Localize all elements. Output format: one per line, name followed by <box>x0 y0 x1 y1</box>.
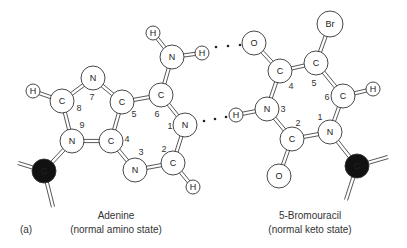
atom-n-na: N <box>160 45 184 69</box>
svg-text:C: C <box>119 97 126 107</box>
hydrogen-bond-dot <box>227 45 230 48</box>
svg-text:C: C <box>59 96 66 106</box>
adenine-state: (normal amino state) <box>56 223 176 236</box>
svg-text:C: C <box>340 91 347 101</box>
atom-c-c2: C <box>161 151 185 175</box>
svg-text:H: H <box>370 84 377 94</box>
atom-c-c5: C <box>110 90 134 114</box>
atom-h-ha1: H <box>146 26 160 40</box>
svg-text:N: N <box>182 120 189 130</box>
panel-label: (a) <box>16 223 36 236</box>
svg-text:N: N <box>69 136 76 146</box>
ring-position-number: 6 <box>324 92 329 102</box>
svg-text:C: C <box>170 158 177 168</box>
hydrogen-bond-dot <box>215 46 218 49</box>
atom-h-ha2: H <box>195 46 209 60</box>
svg-text:N: N <box>327 127 334 137</box>
svg-text:N: N <box>90 73 97 83</box>
svg-text:C: C <box>313 58 320 68</box>
svg-text:H: H <box>233 110 240 120</box>
svg-text:H: H <box>30 86 37 96</box>
svg-text:O: O <box>275 171 282 181</box>
ring-position-number: 6 <box>154 109 159 119</box>
svg-text:C: C <box>277 66 284 76</box>
svg-text:O: O <box>250 38 257 48</box>
atom-n-n7: N <box>81 66 105 90</box>
atom-c-c2: C <box>280 127 304 151</box>
bromouracil-title: 5-Bromouracil <box>250 209 370 222</box>
atom-c-c4: C <box>268 59 292 83</box>
atom-n-n1: N <box>318 120 342 144</box>
atom-h-h2: H <box>186 180 200 194</box>
ring-position-number: 1 <box>167 121 172 131</box>
svg-text:N: N <box>132 165 139 175</box>
svg-text:C: C <box>158 90 165 100</box>
atom-c-c6: C <box>331 84 355 108</box>
svg-text:N: N <box>264 104 271 114</box>
ring-position-number: 7 <box>89 92 94 102</box>
adenine-title: Adenine <box>56 209 176 222</box>
svg-text:Br: Br <box>326 19 335 29</box>
atom-h-h8: H <box>26 84 40 98</box>
atom-n-n1: N <box>173 113 197 137</box>
ring-position-number: 4 <box>288 81 293 91</box>
svg-text:C: C <box>108 136 115 146</box>
svg-text:C: C <box>289 134 296 144</box>
ring-position-number: 3 <box>138 147 143 157</box>
svg-text:C: C <box>41 166 48 176</box>
atom-c-c6: C <box>149 83 173 107</box>
svg-text:C: C <box>354 161 361 171</box>
atom-c-c8: C <box>50 89 74 113</box>
atom-n-n3: N <box>255 97 279 121</box>
atom-h-h3: H <box>229 108 243 122</box>
svg-text:N: N <box>169 52 176 62</box>
hydrogen-bond-dot <box>203 120 206 123</box>
ring-position-number: 5 <box>311 78 316 88</box>
atom-c-cs: C <box>32 159 56 183</box>
ring-position-number: 4 <box>124 134 129 144</box>
ring-position-number: 5 <box>131 109 136 119</box>
atom-n-n9: N <box>60 129 84 153</box>
atom-h-h6: H <box>366 82 380 96</box>
atom-o-o2: O <box>267 164 291 188</box>
ring-position-number: 8 <box>76 103 81 113</box>
ring-position-number: 9 <box>79 120 84 130</box>
svg-text:H: H <box>190 182 197 192</box>
atom-br-br: Br <box>317 11 343 37</box>
atom-c-c4: C <box>99 129 123 153</box>
hydrogen-bond-dot <box>225 116 228 119</box>
atom-n-n3: N <box>123 158 147 182</box>
bromouracil-state: (normal keto state) <box>250 223 370 236</box>
svg-text:H: H <box>199 48 206 58</box>
ring-position-number: 1 <box>317 112 322 122</box>
hydrogen-bond-dot <box>214 118 217 121</box>
ring-position-number: 3 <box>280 104 285 114</box>
atom-c-c5: C <box>304 51 328 75</box>
atom-o-o4: O <box>242 31 266 55</box>
ring-position-number: 2 <box>161 144 166 154</box>
ring-position-number: 2 <box>295 118 300 128</box>
atom-c-cs: C <box>345 154 369 178</box>
svg-text:H: H <box>150 28 157 38</box>
hydrogen-bond-dot <box>239 44 242 47</box>
